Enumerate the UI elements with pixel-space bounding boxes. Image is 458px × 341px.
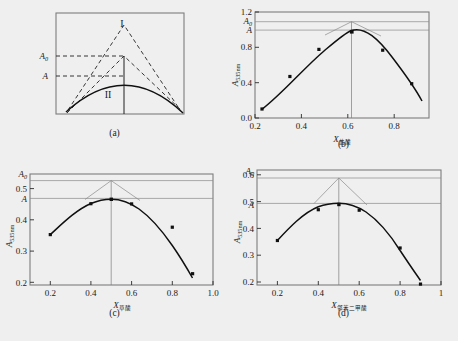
panel-c-xtick-1: 0.4 [85,288,97,298]
panel-d-svg: 0.2 0.3 0.4 0.5 0.6 0.2 0.4 0.6 0.8 1 [229,160,458,320]
panel-c-ytick-0: 0.2 [16,278,27,288]
panel-b-caption: (b) [229,139,458,149]
panel-d-ylabel: A535nm [232,220,243,244]
panel-d-tangent-lines [314,178,367,205]
panel-b-ytick-2: 0.8 [241,42,253,52]
panel-d-xtick-2: 0.6 [354,288,366,298]
panel-d-caption: (d) [229,308,458,318]
panel-c-x-ticks: 0.2 0.4 0.6 0.8 1.0 [45,281,219,298]
panel-d: 0.2 0.3 0.4 0.5 0.6 0.2 0.4 0.6 0.8 1 [229,160,458,320]
schematic-label-I: I [120,18,123,29]
panel-b-x-ticks: 0.2 0.4 0.6 0.8 [249,114,400,131]
schematic-label-II: II [105,89,112,100]
panel-b-a-label: A [246,25,253,35]
panel-d-a0-label: A0 [244,166,255,177]
svg-text:A535nm: A535nm [4,224,15,248]
panel-c-xtick-3: 0.8 [167,288,179,298]
panel-d-data-points [276,203,422,286]
panel-b: 0.0 0.4 0.8 1.2 0.2 0.4 0.6 0.8 [229,0,458,155]
panel-c-ytick-1: 0.3 [16,246,28,256]
panel-b-xtick-3: 0.8 [389,121,401,131]
panel-b-data-points [260,30,413,111]
panel-d-a-label: A [248,200,255,210]
panel-a-caption: (a) [0,128,229,138]
panel-c-ytick-2: 0.4 [16,215,28,225]
panel-d-xtick-4: 1 [439,288,444,298]
panel-c-data-points [49,198,195,276]
panel-a: A0 A I II (a) [0,0,229,150]
panel-d-x-ticks: 0.2 0.4 0.6 0.8 1 [272,281,443,298]
panel-d-fitted-curve [277,203,420,280]
panel-b-tangent-lines [325,22,381,36]
svg-text:A535nm: A535nm [232,220,243,244]
panel-b-frame [255,12,429,118]
panel-c-a0-label: A0 [17,169,28,180]
panel-c: 0.2 0.3 0.4 0.5 0.2 0.4 0.6 0.8 1.0 [0,160,229,320]
panel-b-ytick-1: 0.4 [241,78,253,88]
panel-d-y-ticks: 0.2 0.3 0.4 0.5 0.6 [243,170,261,287]
panel-c-tangent-lines [85,181,140,201]
panel-c-xtick-2: 0.6 [126,288,138,298]
panel-c-fitted-curve [50,199,192,278]
panel-b-svg: 0.0 0.4 0.8 1.2 0.2 0.4 0.6 0.8 [229,0,458,155]
panel-d-xtick-0: 0.2 [272,288,283,298]
panel-d-xtick-3: 0.8 [394,288,406,298]
panel-d-ytick-1: 0.3 [243,250,255,260]
svg-text:A535nm: A535nm [230,63,241,87]
panel-c-xtick-4: 1.0 [207,288,219,298]
panel-d-frame [257,170,441,285]
panel-b-fitted-curve [262,30,422,110]
schematic-a-label: A [42,71,49,81]
panel-c-a-label: A [21,194,28,204]
panel-d-ytick-2: 0.4 [243,224,255,234]
figure-container: A0 A I II (a) 0.0 0.4 0.8 1.2 [0,0,458,341]
panel-c-caption: (c) [0,308,229,318]
panel-c-frame [30,174,213,285]
schematic-a0-label: A0 [38,51,49,62]
panel-c-xtick-0: 0.2 [45,288,56,298]
panel-d-ytick-0: 0.2 [243,277,254,287]
panel-c-ytick-3: 0.5 [16,184,28,194]
panel-c-ylabel: A535nm [4,224,15,248]
panel-b-xtick-2: 0.6 [342,121,354,131]
panel-b-xtick-0: 0.2 [249,121,260,131]
panel-c-svg: 0.2 0.3 0.4 0.5 0.2 0.4 0.6 0.8 1.0 [0,160,229,320]
panel-b-ylabel: A535nm [230,63,241,87]
panel-b-xtick-1: 0.4 [296,121,308,131]
panel-d-xtick-1: 0.4 [313,288,325,298]
